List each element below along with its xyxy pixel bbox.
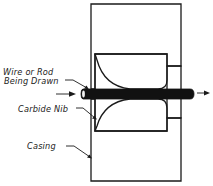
label-wire-line2: Being Drawn: [4, 76, 59, 86]
output-arrow-icon: [197, 90, 210, 95]
wire-body: [81, 89, 194, 99]
wire-left-end-highlight: [82, 91, 85, 98]
label-casing: Casing: [27, 141, 56, 151]
leader-casing: [66, 146, 90, 157]
leader-wire: [65, 80, 87, 88]
leader-nib: [76, 108, 95, 118]
label-carbide-nib: Carbide Nib: [18, 104, 68, 114]
nib-lower-half: [95, 99, 167, 131]
input-arrow-icon: [56, 91, 76, 97]
wire-rod: [81, 89, 194, 99]
wire-drawing-die-diagram: Wire or Rod Being Drawn Carbide Nib Casi…: [0, 0, 213, 186]
nib-upper-half: [95, 54, 167, 89]
